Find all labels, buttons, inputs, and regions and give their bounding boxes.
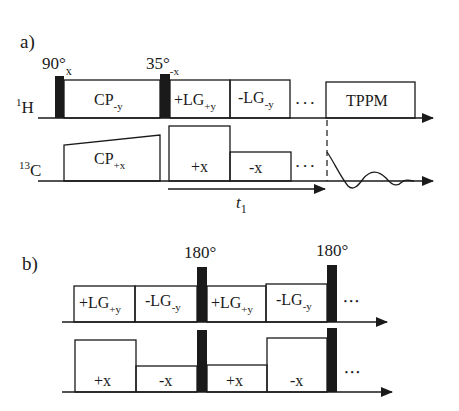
panel-a: a) 90°x 35°-x 1H CP-y +LG+y -LG-y • • • … — [16, 31, 433, 216]
pulse-35-x-bar — [160, 74, 170, 118]
b-bottom-block-2-text: -x — [159, 372, 172, 389]
h-channel-label: 1H — [16, 96, 34, 117]
b-bottom-block-1-text: +x — [94, 372, 111, 389]
pulse-90x-bar — [55, 76, 64, 118]
h-ellipsis: • • • — [296, 98, 315, 108]
c-channel-label: 13C — [19, 159, 41, 180]
b-top-block-3-text: +LG+y — [211, 294, 254, 315]
c-block-cp-text: CP+x — [94, 150, 126, 171]
t1-label: t1 — [236, 193, 247, 216]
b-top-block-1-text: +LG+y — [79, 294, 122, 315]
b-top-block-2-text: -LG-y — [145, 292, 181, 313]
b-bottom-block-4-text: -x — [290, 372, 303, 389]
b-bottom-pulse-180-1 — [197, 330, 207, 392]
pulse-35-label: 35°-x — [146, 54, 179, 77]
b-top-pulse-180-2 — [327, 265, 337, 322]
b-top-ellipsis: • • • — [344, 297, 359, 306]
c-block-plus-x-text: +x — [191, 158, 208, 175]
pulse-90-label: 90°x — [42, 54, 72, 78]
pulse-sequence-diagram: a) 90°x 35°-x 1H CP-y +LG+y -LG-y • • • … — [0, 0, 459, 411]
b-top-block-4-text: -LG-y — [276, 291, 312, 312]
pulse-180-label-2: 180° — [316, 241, 348, 260]
b-bottom-pulse-180-2 — [327, 328, 337, 392]
panel-b-label: b) — [22, 253, 38, 275]
b-bottom-ellipsis: • • • — [345, 368, 360, 377]
pulse-180-label-1: 180° — [184, 243, 216, 262]
h-block-cp-text: CP-y — [94, 91, 123, 112]
c-block-minus-x-text: -x — [249, 159, 262, 176]
h-block-minus-lg-text: -LG-y — [238, 89, 274, 110]
c-ellipsis: • • • — [296, 161, 315, 171]
fid-signal — [327, 152, 414, 188]
h-block-tppm-text: TPPM — [346, 92, 388, 109]
b-top-pulse-180-1 — [197, 267, 207, 322]
panel-b: b) 180° 180° +LG+y -LG-y +LG+y -LG-y • •… — [22, 241, 392, 392]
panel-a-label: a) — [20, 31, 35, 53]
h-block-plus-lg-text: +LG+y — [174, 91, 217, 112]
b-bottom-block-3-text: +x — [226, 372, 243, 389]
